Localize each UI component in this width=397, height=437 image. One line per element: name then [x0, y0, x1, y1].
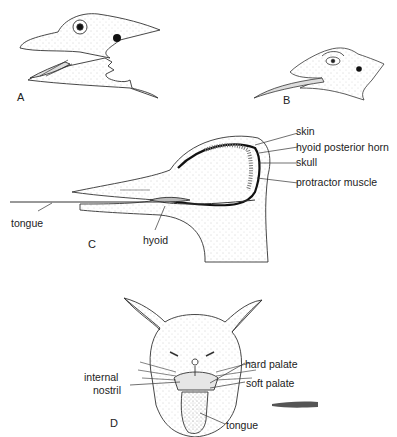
label-internal: internal: [84, 372, 118, 383]
label-protractor-muscle: protractor muscle: [296, 177, 377, 188]
panel-letter-a: A: [17, 92, 24, 103]
panel-letter-d: D: [110, 418, 118, 429]
panel-letter-c: C: [88, 239, 96, 250]
label-skin: skin: [296, 126, 315, 137]
panel-c-drawing: [10, 136, 270, 262]
label-hard-palate: hard palate: [245, 359, 298, 370]
panel-a-drawing: [20, 14, 160, 98]
figure-drawings: [0, 0, 397, 437]
panel-letter-b: B: [283, 95, 290, 106]
label-hyoid-posterior-horn: hyoid posterior horn: [296, 142, 389, 153]
anatomy-figure: A B C D skin hyoid posterior horn skull …: [0, 0, 397, 437]
label-skull: skull: [296, 157, 317, 168]
label-hyoid: hyoid: [143, 235, 168, 246]
label-tongue-d: tongue: [226, 420, 258, 431]
label-soft-palate: soft palate: [246, 378, 294, 389]
panel-d-drawing: [124, 298, 262, 437]
panel-b-drawing: [254, 48, 384, 100]
label-tongue-c: tongue: [11, 218, 43, 229]
label-nostril: nostril: [93, 385, 121, 396]
smudge: [272, 402, 318, 408]
